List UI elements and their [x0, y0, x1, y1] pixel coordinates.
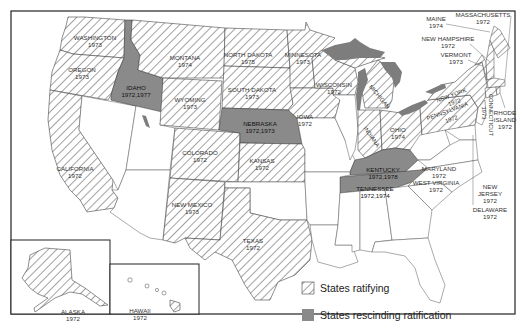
svg-text:NORTH DAKOTA: NORTH DAKOTA	[224, 51, 273, 58]
label-rhode-island: RHODE	[494, 109, 516, 116]
svg-text:KENTUCKY: KENTUCKY	[366, 166, 400, 173]
svg-text:1972,1973: 1972,1973	[245, 127, 275, 134]
label-idaho: IDAHO	[126, 84, 146, 91]
svg-text:1972: 1972	[327, 88, 341, 95]
svg-text:MAINE: MAINE	[426, 15, 446, 22]
svg-text:1972: 1972	[432, 172, 446, 179]
svg-text:1972: 1972	[298, 120, 312, 127]
label-california: CALIFORNIA	[56, 165, 94, 172]
label-vermont: VERMONT	[441, 51, 472, 58]
svg-text:1974: 1974	[429, 22, 443, 29]
label-ohio: OHIO	[390, 126, 406, 133]
label-nebraska: NEBRASKA	[243, 120, 278, 127]
svg-text:ISLAND: ISLAND	[494, 116, 517, 123]
svg-text:NEBRASKA: NEBRASKA	[243, 120, 278, 127]
svg-text:NEW: NEW	[483, 183, 498, 190]
era-ratification-map: WASHINGTON 1973 OREGON 1973 IDAHO 1972,1…	[0, 0, 525, 334]
legend-label-rescinding: States rescinding ratification	[320, 309, 451, 321]
label-wyoming: WYOMING	[175, 96, 206, 103]
label-texas: TEXAS	[243, 237, 263, 244]
label-kansas: KANSAS	[249, 157, 274, 164]
svg-text:MARYLAND: MARYLAND	[422, 165, 457, 172]
label-maine: MAINE	[426, 15, 446, 22]
svg-text:1974: 1974	[391, 133, 405, 140]
svg-text:1972: 1972	[483, 197, 497, 204]
label-west-virginia: WEST VIRGINIA	[413, 179, 461, 186]
svg-text:1972: 1972	[255, 164, 269, 171]
label-alaska: ALASKA	[61, 308, 86, 315]
svg-text:HAWAII: HAWAII	[129, 307, 151, 314]
state-north-dakota[interactable]	[224, 28, 290, 68]
svg-text:1975: 1975	[241, 58, 255, 65]
svg-text:1972: 1972	[68, 172, 82, 179]
svg-text:IOWA: IOWA	[297, 113, 314, 120]
svg-text:SOUTH DAKOTA: SOUTH DAKOTA	[228, 86, 277, 93]
label-tennessee: TENNESSEE	[356, 185, 393, 192]
svg-text:NEW MEXICO: NEW MEXICO	[172, 201, 213, 208]
alaska-inset: ALASKA 1972	[11, 240, 110, 322]
hawaii-inset: HAWAII 1972	[110, 264, 199, 321]
svg-text:1973: 1973	[449, 58, 463, 65]
state-massachusetts[interactable]	[487, 78, 505, 88]
label-montana: MONTANA	[170, 54, 201, 61]
svg-text:1973: 1973	[183, 103, 197, 110]
label-hawaii: HAWAII	[129, 307, 151, 314]
legend-label-ratifying: States ratifying	[320, 282, 390, 294]
svg-text:1972,1978: 1972,1978	[368, 173, 398, 180]
label-delaware: DELAWARE	[473, 206, 507, 213]
svg-text:States ratifying: States ratifying	[320, 282, 390, 294]
svg-text:1973: 1973	[245, 93, 259, 100]
svg-text:WASHINGTON: WASHINGTON	[74, 34, 116, 41]
svg-text:MONTANA: MONTANA	[170, 54, 201, 61]
svg-text:WEST VIRGINIA: WEST VIRGINIA	[413, 179, 461, 186]
legend-swatch-rescinding	[302, 309, 314, 321]
label-south-dakota: SOUTH DAKOTA	[228, 86, 277, 93]
label-colorado: COLORADO	[182, 149, 218, 156]
svg-text:1972: 1972	[498, 123, 512, 130]
svg-text:WYOMING: WYOMING	[175, 96, 206, 103]
svg-text:1972: 1972	[193, 156, 207, 163]
label-maryland: MARYLAND	[422, 165, 457, 172]
label-kentucky: KENTUCKY	[366, 166, 400, 173]
svg-text:1973: 1973	[296, 58, 310, 65]
svg-text:1972: 1972	[133, 314, 147, 321]
svg-text:JERSEY: JERSEY	[478, 190, 502, 197]
label-north-dakota: NORTH DAKOTA	[224, 51, 273, 58]
svg-text:TEXAS: TEXAS	[243, 237, 263, 244]
svg-text:1974: 1974	[178, 61, 192, 68]
svg-text:1973: 1973	[185, 208, 199, 215]
svg-text:IDAHO: IDAHO	[126, 84, 146, 91]
label-oregon: OREGON	[68, 66, 96, 73]
state-montana[interactable]	[131, 20, 225, 78]
svg-text:KANSAS: KANSAS	[249, 157, 274, 164]
svg-text:1972,1977: 1972,1977	[121, 91, 151, 98]
label-connecticut: CONNECTICUT	[488, 94, 494, 137]
label-new-hampshire: NEW HAMPSHIRE	[422, 35, 475, 42]
svg-text:1972: 1972	[429, 186, 443, 193]
svg-text:ALASKA: ALASKA	[61, 308, 86, 315]
svg-text:1972: 1972	[483, 213, 497, 220]
label-washington: WASHINGTON	[74, 34, 116, 41]
label-minnesota: MINNESOTA	[285, 51, 322, 58]
label-wisconsin: WISCONSIN	[316, 81, 352, 88]
label-new-jersey: NEW	[483, 183, 498, 190]
svg-text:OHIO: OHIO	[390, 126, 406, 133]
svg-text:1973: 1973	[75, 73, 89, 80]
svg-text:1972: 1972	[441, 42, 455, 49]
svg-text:1972: 1972	[476, 18, 490, 25]
svg-text:MINNESOTA: MINNESOTA	[285, 51, 322, 58]
svg-text:RHODE: RHODE	[494, 109, 516, 116]
svg-text:1972: 1972	[66, 315, 80, 322]
svg-text:1973: 1973	[481, 107, 487, 120]
legend-swatch-ratifying	[302, 282, 314, 294]
svg-text:States rescinding ratification: States rescinding ratification	[320, 309, 451, 321]
svg-text:MASSACHUSETTS: MASSACHUSETTS	[455, 11, 510, 18]
svg-text:CALIFORNIA: CALIFORNIA	[56, 165, 94, 172]
label-massachusetts: MASSACHUSETTS	[455, 11, 510, 18]
svg-text:OREGON: OREGON	[68, 66, 96, 73]
svg-text:DELAWARE: DELAWARE	[473, 206, 507, 213]
svg-text:1972,1974: 1972,1974	[360, 192, 390, 199]
label-iowa: IOWA	[297, 113, 314, 120]
label-new-mexico: NEW MEXICO	[172, 201, 213, 208]
svg-text:VERMONT: VERMONT	[441, 51, 472, 58]
